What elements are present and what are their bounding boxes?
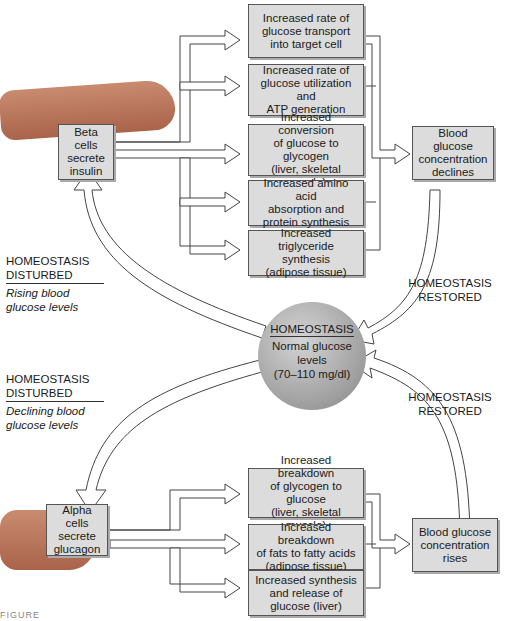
homeostasis-disturbed-declining: HOMEOSTASIS DISTURBED Declining blood gl…	[6, 372, 104, 432]
result-box-declines: Blood glucose concentration declines	[412, 126, 494, 180]
top-collect-arrows	[362, 36, 410, 250]
figure-caption: FIGURE	[0, 610, 40, 620]
beta-cells-box: Beta cells secrete insulin	[58, 124, 114, 180]
arrow-rises-to-center	[352, 350, 470, 545]
homeostasis-disturbed-rising: HOMEOSTASIS DISTURBED Rising blood gluco…	[6, 254, 104, 314]
effect-box-amino-acid: Increased amino acid absorption and prot…	[248, 180, 364, 226]
bottom-collect-arrows	[362, 494, 410, 588]
effect-box-glucose-synthesis: Increased synthesis and release of gluco…	[248, 570, 364, 616]
effect-box-glycogen-conversion: Increased conversion of glucose to glyco…	[248, 124, 364, 176]
effect-box-glycogen-breakdown: Increased breakdown of glycogen to gluco…	[248, 468, 364, 518]
homeostasis-center-circle: HOMEOSTASIS Normal glucose levels (70–11…	[258, 302, 366, 410]
effect-box-glucose-transport: Increased rate of glucose transport into…	[248, 4, 364, 58]
arrow-declines-to-center	[352, 190, 440, 344]
top-branch-arrows	[110, 30, 240, 260]
alpha-cells-box: Alpha cells secrete glucagon	[46, 504, 108, 556]
bottom-branch-arrows	[110, 484, 240, 598]
homeostasis-restored-top: HOMEOSTASIS RESTORED	[400, 276, 500, 304]
result-box-rises: Blood glucose concentration rises	[412, 518, 498, 572]
effect-box-glucose-utilization: Increased rate of glucose utilization an…	[248, 64, 364, 116]
effect-box-triglyceride: Increased triglyceride synthesis (adipos…	[248, 230, 364, 276]
homeostasis-restored-bottom: HOMEOSTASIS RESTORED	[400, 390, 500, 418]
effect-box-fat-breakdown: Increased breakdown of fats to fatty aci…	[248, 524, 364, 570]
